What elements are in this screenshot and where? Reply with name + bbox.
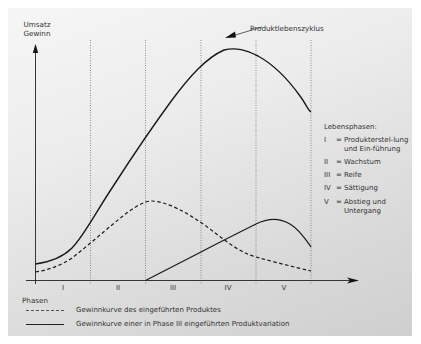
y-axis-label: Umsatz Gewinn xyxy=(22,20,52,38)
profit-curve-dashed xyxy=(36,201,312,272)
phase-label-5: V xyxy=(282,284,287,292)
phase-label-4: IV xyxy=(225,284,232,292)
dashed-line-swatch xyxy=(26,310,64,311)
legend-item: V = Abstieg und Untergang xyxy=(324,198,414,216)
legend-item: II = Wachstum xyxy=(324,158,414,167)
phase-separators xyxy=(91,40,312,284)
legend-title: Lebensphasen: xyxy=(324,123,414,132)
phases-legend: Lebensphasen: I = Produkterstel-lung und… xyxy=(324,123,414,220)
legend-item: III = Reife xyxy=(324,171,414,180)
phase-label-2: II xyxy=(116,284,120,292)
key-solid-label: Gewinnkurve einer in Phase III eingeführ… xyxy=(76,320,289,328)
cycle-annotation-label: Produktlebenszyklus xyxy=(250,24,324,33)
variation-profit-curve xyxy=(146,220,312,281)
y-axis-arrow-icon xyxy=(33,44,38,53)
key-dashed-row: Gewinnkurve des eingeführten Produktes xyxy=(26,306,221,314)
legend-item: IV = Sättigung xyxy=(324,184,414,193)
annotation-arrow-icon xyxy=(225,32,236,39)
legend-item: I = Produkterstel-lung und Ein-führung xyxy=(324,136,414,154)
sales-curve xyxy=(36,49,312,264)
key-solid-row: Gewinnkurve einer in Phase III eingeführ… xyxy=(26,320,289,328)
x-axis-label: Phasen xyxy=(22,296,48,305)
phase-label-1: I xyxy=(62,284,64,292)
phase-label-3: III xyxy=(170,284,176,292)
y-label-line-2: Gewinn xyxy=(22,29,52,38)
y-label-line-1: Umsatz xyxy=(22,20,52,29)
key-dashed-label: Gewinnkurve des eingeführten Produktes xyxy=(76,306,221,314)
solid-line-swatch xyxy=(26,324,64,325)
